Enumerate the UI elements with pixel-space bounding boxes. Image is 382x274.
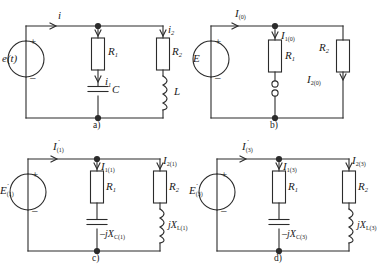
panel-caption-a: a) — [93, 120, 100, 130]
component-label-r2: R2 — [169, 181, 179, 193]
resistor-r2-body — [337, 40, 350, 72]
panel-b: I(0) I1(0) I2(0) R1 R2 E + – b) — [191, 0, 382, 137]
current-label-i1: ˙I(1) — [54, 141, 64, 153]
source-plus-sign: + — [30, 36, 36, 47]
resistor-r2-body — [157, 38, 170, 70]
source-label: e(t) — [2, 53, 17, 64]
panel-caption-c: c) — [92, 253, 99, 263]
current-label-i1-1: I1(1) — [101, 161, 115, 173]
panel-b-schematic — [191, 0, 382, 137]
current-label-i2: i2 — [168, 24, 174, 36]
current-label-i2-3: I2(3) — [352, 155, 366, 167]
resistor-r2-body — [343, 171, 356, 203]
component-label-xc: –jXC(1) — [100, 229, 125, 240]
current-label-i2-1: I2(1) — [163, 155, 177, 167]
component-label-r1: R1 — [288, 181, 298, 193]
resistor-r1-body — [273, 171, 286, 203]
source-minus-sign: – — [32, 205, 38, 216]
current-label-i: i — [58, 10, 61, 21]
source-minus-sign: – — [30, 72, 36, 83]
figure-canvas: i i1 i2 R1 R2 C L e(t) + – a) — [0, 0, 382, 274]
node-top — [272, 23, 278, 29]
current-label-i1: i1 — [105, 76, 111, 88]
source-minus-sign: – — [221, 205, 227, 216]
panel-caption-b: b) — [270, 120, 278, 130]
component-label-c: C — [112, 84, 119, 95]
source-label: E — [193, 53, 200, 64]
component-label-r2: R2 — [358, 181, 368, 193]
panel-c: ˙I(1) I1(1) I2(1) R1 R2 –jXC(1) jXL(1) ˙… — [0, 137, 191, 274]
inductor-coil — [349, 209, 353, 243]
component-label-xc: –jXC(3) — [282, 229, 307, 240]
resistor-r1-body — [91, 171, 104, 203]
source-minus-sign: – — [215, 72, 221, 83]
component-label-r1: R1 — [108, 46, 118, 58]
panel-caption-d: d) — [274, 253, 282, 263]
current-label-i0: I(0) — [235, 8, 246, 20]
current-label-i3: ˙I(3) — [243, 141, 253, 153]
node-top — [276, 156, 282, 162]
current-label-i1-0: I1(0) — [281, 30, 295, 42]
current-label-i1-3: I1(3) — [283, 161, 297, 173]
component-label-r2: R2 — [172, 46, 182, 58]
resistor-r2-body — [154, 171, 167, 203]
component-label-l: L — [174, 86, 180, 97]
panel-d: ˙I(3) I1(3) I2(3) R1 R2 –jXC(3) jXL(3) ˙… — [191, 137, 382, 274]
panel-a: i i1 i2 R1 R2 C L e(t) + – a) — [0, 0, 191, 137]
inductor-coil — [163, 76, 167, 110]
node-top — [95, 23, 101, 29]
switch-terminal-upper — [272, 81, 278, 87]
source-plus-sign: + — [221, 169, 227, 180]
resistor-r1-body — [269, 40, 282, 72]
component-label-xl: jXL(3) — [357, 220, 377, 231]
source-plus-sign: + — [215, 36, 221, 47]
component-label-r1: R1 — [106, 181, 116, 193]
component-label-r2: R2 — [319, 42, 329, 54]
node-top — [94, 156, 100, 162]
component-label-r1: R1 — [285, 50, 295, 62]
switch-terminal-lower — [272, 90, 278, 96]
current-label-i2-0: I2(0) — [307, 74, 321, 86]
resistor-r1-body — [92, 38, 105, 70]
source-label: ˙E(1) — [2, 185, 14, 197]
source-label: ˙E(3) — [191, 185, 203, 197]
inductor-coil — [160, 209, 164, 243]
panel-a-schematic — [0, 0, 191, 137]
component-label-xl: jXL(1) — [168, 220, 188, 231]
source-plus-sign: + — [32, 169, 38, 180]
